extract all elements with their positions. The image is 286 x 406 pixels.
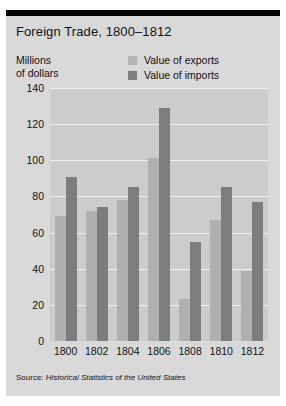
top-rule-divider: [6, 10, 280, 16]
bar-group-1804: [115, 88, 141, 341]
x-axis-tick-1812: 1812: [239, 345, 265, 357]
y-axis-title-line-2: of dollars: [16, 67, 59, 80]
legend-item-imports: Value of imports: [128, 68, 219, 82]
figure-container: Foreign Trade, 1800–1812 Millions of dol…: [0, 0, 286, 406]
bar-group-1800: [53, 88, 79, 341]
bar-1810-exports: [210, 220, 221, 341]
y-axis-tick-20: 20: [32, 299, 44, 311]
bar-1804-exports: [117, 200, 128, 341]
source-note: Source: Historical Statistics of the Uni…: [16, 373, 185, 382]
x-axis-tick-1804: 1804: [115, 345, 141, 357]
y-axis-tick-100: 100: [26, 154, 44, 166]
bar-group-1806: [146, 88, 172, 341]
x-axis-tick-1802: 1802: [84, 345, 110, 357]
x-axis-tick-1806: 1806: [146, 345, 172, 357]
bar-groups: [50, 88, 268, 341]
bar-1810-imports: [221, 187, 232, 341]
plot-area-wrapper: 140120100806040200 180018021804180618081…: [16, 88, 268, 343]
bar-1802-imports: [97, 207, 108, 341]
bar-1808-exports: [179, 299, 190, 341]
source-prefix: Source:: [16, 373, 46, 382]
source-title: Historical Statistics of the United Stat…: [46, 373, 186, 382]
y-axis-tick-labels: 140120100806040200: [16, 88, 44, 343]
legend-item-exports: Value of exports: [128, 53, 219, 67]
x-axis-tick-labels: 1800180218041806180818101812: [50, 345, 268, 357]
legend-label-exports: Value of exports: [144, 54, 219, 66]
y-axis-title-line-1: Millions: [16, 54, 59, 67]
legend: Value of exports Value of imports: [128, 53, 219, 83]
bar-1800-imports: [66, 177, 77, 341]
legend-swatch-exports-icon: [128, 56, 137, 65]
chart-panel: Foreign Trade, 1800–1812 Millions of dol…: [6, 10, 280, 396]
y-axis-tick-80: 80: [32, 190, 44, 202]
legend-label-imports: Value of imports: [144, 69, 219, 81]
x-axis-tick-1808: 1808: [177, 345, 203, 357]
bar-1806-exports: [148, 158, 159, 341]
y-axis-title: Millions of dollars: [16, 54, 59, 79]
y-axis-tick-140: 140: [26, 82, 44, 94]
bar-group-1810: [208, 88, 234, 341]
bar-1812-exports: [241, 271, 252, 341]
bar-1808-imports: [190, 242, 201, 341]
bar-1806-imports: [159, 108, 170, 341]
bar-1802-exports: [86, 211, 97, 341]
bar-1800-exports: [55, 216, 66, 341]
bar-1804-imports: [128, 187, 139, 341]
plot-area: [50, 88, 268, 341]
x-axis-tick-1810: 1810: [208, 345, 234, 357]
bar-1812-imports: [252, 202, 263, 341]
chart-title: Foreign Trade, 1800–1812: [16, 24, 172, 39]
y-axis-tick-40: 40: [32, 263, 44, 275]
y-axis-tick-60: 60: [32, 227, 44, 239]
x-axis-tick-1800: 1800: [53, 345, 79, 357]
bar-group-1808: [177, 88, 203, 341]
y-axis-tick-0: 0: [38, 335, 44, 347]
legend-swatch-imports-icon: [128, 71, 137, 80]
y-axis-tick-120: 120: [26, 118, 44, 130]
bar-group-1812: [239, 88, 265, 341]
bar-group-1802: [84, 88, 110, 341]
